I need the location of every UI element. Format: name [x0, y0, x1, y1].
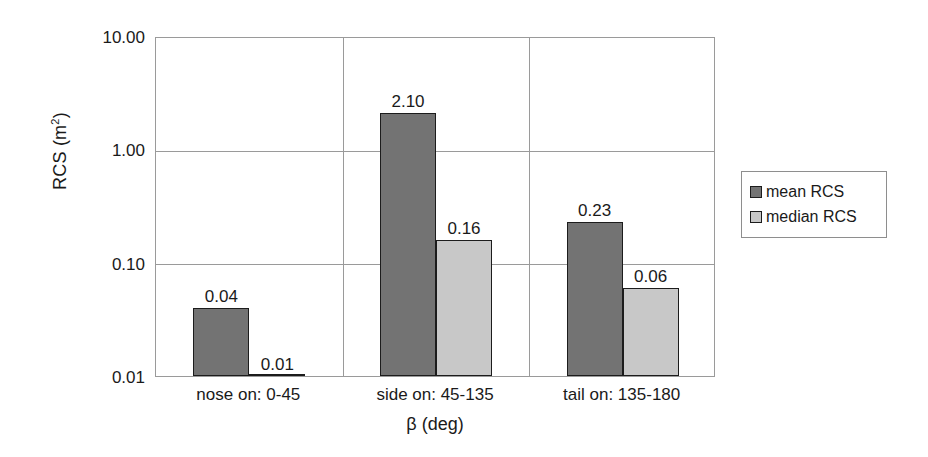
x-axis-tick-label: side on: 45-135: [376, 385, 493, 405]
rcs-bar-chart: RCS (m2) 10.001.000.100.01 0.040.012.100…: [0, 0, 928, 457]
y-axis-tick-labels: 10.001.000.100.01: [50, 37, 145, 377]
legend-swatch-icon: [750, 211, 762, 223]
legend-item[interactable]: mean RCS: [750, 179, 878, 204]
y-axis-tick-label: 10.00: [55, 29, 145, 46]
legend-item[interactable]: median RCS: [750, 204, 878, 229]
x-axis-tick-label: tail on: 135-180: [563, 385, 680, 405]
x-axis-tick-label: nose on: 0-45: [196, 385, 300, 405]
bar-value-label: 0.06: [634, 268, 667, 285]
x-axis-tick-labels: nose on: 0-45side on: 45-135tail on: 135…: [155, 385, 715, 411]
category-separator: [343, 38, 344, 376]
legend-item-label: mean RCS: [766, 183, 844, 201]
category-separator: [529, 38, 530, 376]
x-axis-title: β (deg): [155, 414, 715, 435]
y-axis-tick-label: 1.00: [55, 142, 145, 159]
bar-median: [436, 240, 492, 376]
y-axis-tick-label: 0.10: [55, 255, 145, 272]
bar-value-label: 0.16: [447, 220, 480, 237]
chart-legend: mean RCSmedian RCS: [741, 171, 887, 238]
plot-area: 0.040.012.100.160.230.06: [155, 37, 715, 377]
bar-mean: [567, 222, 623, 376]
bar-value-label: 0.23: [578, 202, 611, 219]
bar-median: [249, 374, 305, 376]
bar-value-label: 0.04: [205, 288, 238, 305]
legend-swatch-icon: [750, 186, 762, 198]
bar-median: [623, 288, 679, 376]
bar-value-label: 0.01: [261, 356, 294, 373]
bar-value-label: 2.10: [391, 93, 424, 110]
legend-item-label: median RCS: [766, 208, 857, 226]
bar-mean: [380, 113, 436, 376]
y-axis-tick-label: 0.01: [55, 369, 145, 386]
bar-mean: [193, 308, 249, 376]
